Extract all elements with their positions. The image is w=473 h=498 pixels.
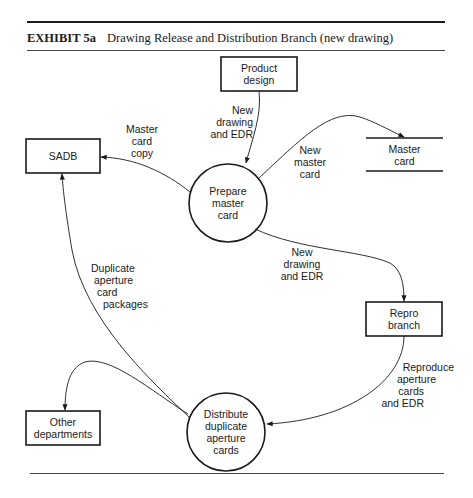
flow-label-distribute-to-sadb: Duplicate aperture card packages bbox=[91, 262, 151, 310]
flow-label-prepare-to-store: New master card bbox=[290, 144, 330, 180]
sadb-label: SADB bbox=[26, 139, 100, 173]
master-card-store-label: Master card bbox=[366, 138, 443, 171]
product-design-label: Product design bbox=[221, 57, 297, 91]
flow-label-prepare-to-repro: New drawing and EDR bbox=[278, 246, 326, 282]
bottom-rule bbox=[30, 473, 444, 474]
distribute-label: Distribute duplicate aperture cards bbox=[187, 393, 265, 471]
flow-distribute-to-other bbox=[65, 361, 188, 414]
flow-label-design-to-prepare: New drawing and EDR bbox=[208, 104, 253, 140]
flow-label-repro-to-distribute: Reproduce aperture cards and EDR bbox=[366, 361, 454, 409]
flow-label-prepare-to-sadb: Master card copy bbox=[122, 123, 162, 159]
repro-branch-label: Repro branch bbox=[366, 302, 442, 336]
prepare-master-card-label: Prepare master card bbox=[189, 164, 267, 242]
flow-prepare-to-sadb bbox=[101, 157, 190, 192]
other-departments-label: Other departments bbox=[26, 411, 100, 445]
